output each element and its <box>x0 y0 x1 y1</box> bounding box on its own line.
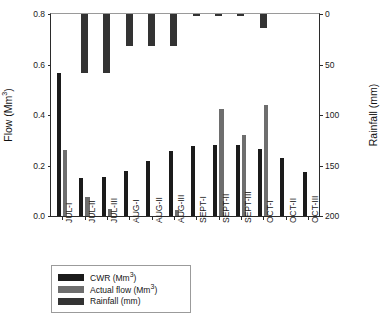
x-axis-tick <box>219 216 220 220</box>
y-axis-tick-right <box>319 14 323 15</box>
y-axis-tick-label-right: 100 <box>325 111 339 120</box>
bar-group <box>118 14 140 216</box>
bar-cwr <box>236 145 240 216</box>
y-axis-tick-left <box>48 216 52 217</box>
y-axis-label-left-tail: ) <box>2 88 14 92</box>
bar-cwr <box>79 178 83 216</box>
legend-label-base: CWR (Mm <box>90 273 130 283</box>
bar-rainfall <box>81 14 88 73</box>
x-axis-tick <box>286 216 287 220</box>
y-axis-tick-left <box>48 166 52 167</box>
y-axis-label-left-text: Flow (Mm <box>2 96 14 142</box>
bar-group <box>230 14 252 216</box>
legend-item: CWR (Mm3) <box>58 271 184 283</box>
legend-label-tail: ) <box>154 285 157 295</box>
x-axis-tick-label: OCT-III <box>311 196 320 223</box>
plot-frame: JUL-IJUL-IIJUL-IIIAUG-IAUG-IIAUG-IIISEPT… <box>50 13 320 217</box>
x-axis-tick <box>308 216 309 220</box>
legend-label-base: Rainfall (mm) <box>90 296 141 306</box>
y-axis-tick-label-right: 50 <box>325 60 334 69</box>
y-axis-tick-left <box>48 65 52 66</box>
y-axis-tick-label-right: 200 <box>325 212 339 221</box>
legend-label: Actual flow (Mm3) <box>90 283 157 294</box>
chart-figure: Flow (Mm3) Rainfall (mm) JUL-IJUL-IIJUL-… <box>0 0 385 320</box>
bar-rainfall <box>193 14 200 16</box>
bar-cwr <box>213 145 217 216</box>
bar-cwr <box>124 171 128 216</box>
bar-group <box>252 14 274 216</box>
y-axis-tick-left <box>48 115 52 116</box>
bar-cwr <box>102 177 106 216</box>
y-axis-tick-right <box>319 216 323 217</box>
x-axis-tick <box>174 216 175 220</box>
bar-rainfall <box>148 14 155 46</box>
legend-item: Actual flow (Mm3) <box>58 283 184 295</box>
y-axis-tick-label-right: 150 <box>325 161 339 170</box>
y-axis-tick-label-left: 0.6 <box>33 60 45 69</box>
x-axis-tick <box>241 216 242 220</box>
y-axis-tick-right <box>319 115 323 116</box>
bar-cwr <box>191 146 195 216</box>
legend-label-base: Actual flow (Mm <box>90 285 150 295</box>
legend-swatch <box>58 298 84 305</box>
bar-group <box>96 14 118 216</box>
bar-rainfall <box>215 14 222 16</box>
y-axis-tick-label-left: 0.2 <box>33 161 45 170</box>
bar-group <box>185 14 207 216</box>
bar-cwr <box>57 73 61 216</box>
legend-label: CWR (Mm3) <box>90 271 136 282</box>
y-axis-tick-label-left: 0.0 <box>33 212 45 221</box>
legend-swatch <box>58 274 84 281</box>
y-axis-tick-label-left: 0.8 <box>33 10 45 19</box>
bar-cwr <box>146 161 150 216</box>
plot-area: JUL-IJUL-IIJUL-IIIAUG-IAUG-IIAUG-IIISEPT… <box>51 14 319 216</box>
bar-group <box>140 14 162 216</box>
bar-cwr <box>303 172 307 216</box>
legend-swatch <box>58 286 84 293</box>
legend-label-tail: ) <box>134 273 137 283</box>
bar-cwr <box>169 151 173 216</box>
bar-cwr <box>258 149 262 216</box>
bar-group <box>163 14 185 216</box>
legend-item: Rainfall (mm) <box>58 295 184 307</box>
x-axis-tick <box>152 216 153 220</box>
y-axis-tick-label-left: 0.4 <box>33 111 45 120</box>
bar-rainfall <box>103 14 110 73</box>
chart-legend: CWR (Mm3)Actual flow (Mm3)Rainfall (mm) <box>51 265 191 313</box>
y-axis-label-left-sup: 3 <box>1 92 8 96</box>
bar-group <box>297 14 319 216</box>
y-axis-tick-right <box>319 166 323 167</box>
bar-group <box>73 14 95 216</box>
y-axis-label-left: Flow (Mm3) <box>1 88 13 141</box>
bar-group <box>207 14 229 216</box>
bar-group <box>51 14 73 216</box>
bar-rainfall <box>260 14 267 28</box>
bar-rainfall <box>237 14 244 16</box>
x-axis-tick <box>107 216 108 220</box>
x-axis-tick <box>85 216 86 220</box>
legend-label: Rainfall (mm) <box>90 297 141 306</box>
y-axis-tick-right <box>319 65 323 66</box>
bar-rainfall <box>170 14 177 46</box>
bar-rainfall <box>126 14 133 46</box>
bar-cwr <box>280 158 284 216</box>
bar-group <box>274 14 296 216</box>
y-axis-tick-label-right: 0 <box>325 10 330 19</box>
y-axis-tick-left <box>48 14 52 15</box>
y-axis-label-right: Rainfall (mm) <box>368 84 379 146</box>
